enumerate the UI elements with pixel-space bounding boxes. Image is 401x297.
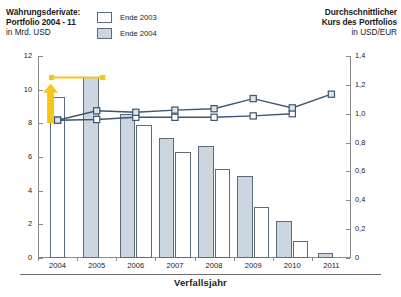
y-tick-label-left: 8 [6, 118, 32, 127]
x-tick-label-2006: 2006 [116, 261, 156, 270]
x-tick-label-2007: 2007 [155, 261, 195, 270]
up-arrow-icon [43, 84, 58, 124]
y-tick-right [346, 258, 350, 259]
y-tick-label-left: 10 [6, 85, 32, 94]
y-tick-label-right: 1,0 [355, 109, 385, 118]
x-axis-rule [20, 274, 381, 275]
plot-area [38, 56, 351, 258]
title-right-line1: Durchschnittlicher [277, 7, 397, 17]
x-axis-labels: 20042005200620072008200920102011 [38, 261, 351, 273]
y-tick-label-left: 2 [6, 219, 32, 228]
y-tick-label-right: 0,8 [355, 138, 385, 147]
annotation-dot [100, 75, 105, 80]
x-tick-label-2005: 2005 [77, 261, 117, 270]
x-tick-label-2009: 2009 [233, 261, 273, 270]
y-tick-label-right: 0,2 [355, 224, 385, 233]
y-tick-label-right: 1,4 [355, 51, 385, 60]
x-tick-label-2008: 2008 [194, 261, 234, 270]
x-tick-label-2010: 2010 [272, 261, 312, 270]
x-tick-label-2004: 2004 [38, 261, 78, 270]
legend-item-ende-2004: Ende 2004 [97, 25, 157, 41]
y-tick-label-right: 1,2 [355, 80, 385, 89]
chart-title-right: Durchschnittlicher Kurs des Portfolios i… [277, 7, 397, 38]
subtitle-right: in USD/EUR [277, 28, 397, 39]
chart-root: Währungsderivate: Portfolio 2004 - 11 in… [0, 0, 401, 297]
y-tick-label-right: 0,6 [355, 166, 385, 175]
legend-item-ende-2003: Ende 2003 [97, 9, 157, 25]
chart-legend: Ende 2003 Ende 2004 [97, 9, 157, 41]
x-axis-title: Verfallsjahr [0, 277, 401, 288]
y-tick-label-left: 4 [6, 186, 32, 195]
y-tick-label-left: 6 [6, 152, 32, 161]
title-right-line2: Kurs des Portfolios [277, 17, 397, 27]
legend-swatch-gray [97, 28, 112, 39]
y-tick-left [39, 258, 43, 259]
y-tick-label-right: 0,4 [355, 195, 385, 204]
annotation-overlay [38, 56, 351, 258]
legend-swatch-white [97, 12, 112, 23]
annotation-dot [49, 75, 54, 80]
legend-label-ende-2003: Ende 2003 [120, 13, 157, 22]
y-tick-label-right: 0 [355, 253, 385, 262]
x-tick-label-2011: 2011 [311, 261, 351, 270]
y-tick-label-left: 0 [6, 253, 32, 262]
legend-label-ende-2004: Ende 2004 [120, 29, 157, 38]
y-tick-label-left: 12 [6, 51, 32, 60]
